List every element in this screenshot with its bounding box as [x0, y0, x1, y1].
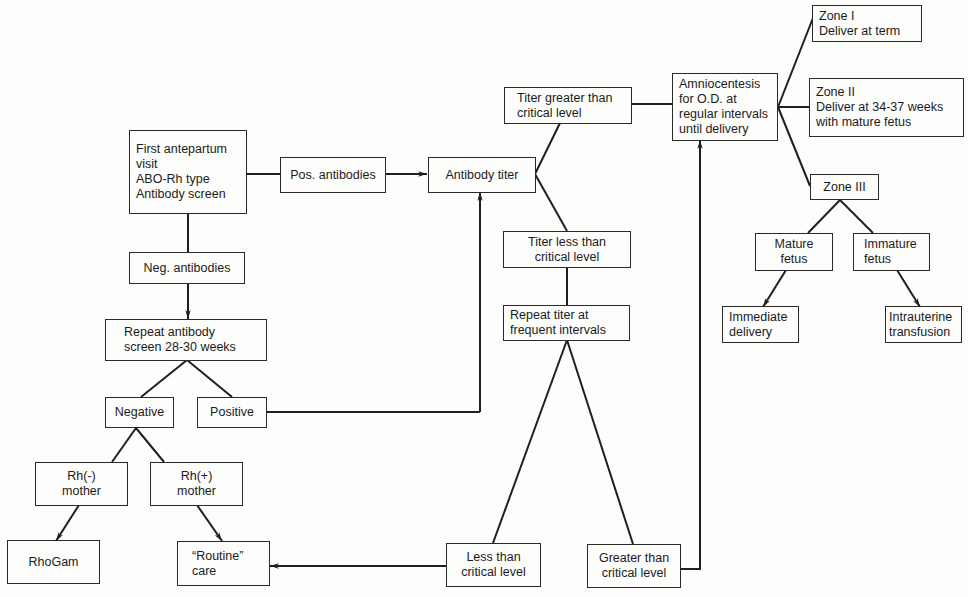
node-positive: Positive: [197, 397, 267, 428]
node-text: for O.D. at: [679, 92, 737, 107]
node-first-antepartum-visit: First antepartum visit ABO-Rh type Antib…: [129, 130, 247, 214]
node-text: regular intervals: [679, 107, 768, 122]
node-text: Amniocentesis: [679, 77, 760, 92]
node-text: Rh(+): [181, 469, 213, 484]
node-text: Repeat antibody: [124, 325, 215, 340]
node-greater-than-critical: Greater than critical level: [587, 544, 681, 588]
node-text: fetus: [864, 252, 891, 267]
node-text: critical level: [602, 566, 667, 581]
node-text: Less than: [466, 550, 520, 565]
node-text: Rh(-): [67, 469, 95, 484]
node-text: Immediate: [729, 310, 787, 325]
node-amniocentesis: Amniocentesis for O.D. at regular interv…: [672, 73, 778, 141]
node-text: with mature fetus: [816, 115, 911, 130]
node-text: First antepartum: [136, 142, 227, 157]
node-text: Deliver at 34-37 weeks: [816, 100, 943, 115]
node-text: “Routine”: [192, 549, 243, 564]
node-immediate-delivery: Immediate delivery: [722, 306, 799, 343]
node-immature-fetus: Immature fetus: [853, 233, 930, 271]
node-text: Zone I: [819, 9, 854, 24]
node-text: Deliver at term: [819, 24, 900, 39]
node-negative: Negative: [105, 397, 174, 428]
node-text: delivery: [729, 325, 772, 340]
node-mature-fetus: Mature fetus: [755, 233, 833, 271]
node-text: Negative: [115, 405, 164, 420]
node-rh-negative-mother: Rh(-) mother: [35, 462, 128, 506]
node-less-than-critical: Less than critical level: [446, 543, 541, 587]
node-text: Antibody screen: [136, 187, 226, 202]
node-repeat-antibody-screen: Repeat antibody screen 28-30 weeks: [105, 319, 267, 361]
node-text: mother: [177, 484, 216, 499]
node-text: Zone III: [823, 180, 865, 195]
node-text: RhoGam: [28, 555, 78, 570]
node-rh-positive-mother: Rh(+) mother: [150, 462, 243, 506]
node-text: Greater than: [599, 551, 669, 566]
node-text: critical level: [535, 250, 600, 265]
node-text: Positive: [210, 405, 254, 420]
node-antibody-titer: Antibody titer: [428, 157, 536, 193]
node-titer-less-than-critical: Titer less than critical level: [503, 231, 631, 268]
node-text: screen 28-30 weeks: [124, 340, 236, 355]
node-text: Neg. antibodies: [144, 261, 231, 276]
node-text: Zone II: [816, 85, 855, 100]
node-text: ABO-Rh type: [136, 172, 210, 187]
node-intrauterine-transfusion: Intrauterine transfusion: [885, 306, 962, 343]
node-text: Titer less than: [528, 235, 606, 250]
node-pos-antibodies: Pos. antibodies: [280, 157, 386, 193]
node-routine-care: “Routine” care: [177, 541, 270, 586]
node-text: Intrauterine: [889, 310, 952, 325]
node-text: fetus: [780, 252, 807, 267]
node-text: visit: [136, 157, 158, 172]
node-repeat-titer: Repeat titer at frequent intervals: [503, 305, 630, 341]
node-zone-1: Zone I Deliver at term: [812, 5, 922, 42]
node-text: Titer greater than: [517, 91, 612, 106]
node-text: Pos. antibodies: [290, 168, 375, 183]
node-text: Repeat titer at: [510, 308, 589, 323]
node-neg-antibodies: Neg. antibodies: [129, 252, 245, 284]
node-text: care: [192, 564, 216, 579]
node-titer-greater-than-critical: Titer greater than critical level: [504, 87, 632, 124]
node-text: Antibody titer: [446, 168, 519, 183]
node-text: critical level: [461, 565, 526, 580]
node-text: Immature: [864, 237, 917, 252]
node-text: transfusion: [889, 325, 950, 340]
node-rhogam: RhoGam: [7, 540, 100, 584]
node-text: Mature: [775, 237, 814, 252]
node-text: critical level: [517, 106, 582, 121]
node-zone-2: Zone II Deliver at 34-37 weeks with matu…: [809, 78, 964, 137]
node-text: until delivery: [679, 122, 748, 137]
node-zone-3: Zone III: [810, 174, 879, 200]
node-text: mother: [62, 484, 101, 499]
node-text: frequent intervals: [510, 323, 606, 338]
